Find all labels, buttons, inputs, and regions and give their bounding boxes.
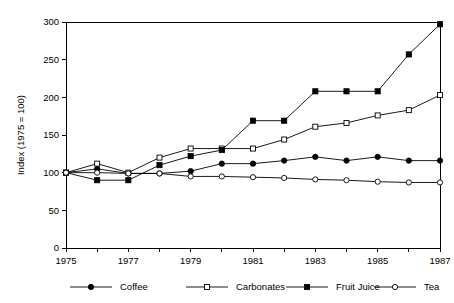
x-tick-label: 1985 bbox=[367, 255, 388, 266]
data-point-marker bbox=[437, 22, 442, 27]
legend-marker-icon bbox=[88, 284, 93, 289]
y-tick-label: 100 bbox=[43, 167, 59, 178]
data-point-marker bbox=[406, 52, 411, 57]
data-point-marker bbox=[219, 161, 224, 166]
plot-frame bbox=[66, 22, 440, 248]
data-point-marker bbox=[95, 161, 100, 166]
x-tick-label: 1975 bbox=[55, 255, 76, 266]
series-polyline bbox=[66, 24, 440, 180]
legend-item-fruit-juice[interactable]: Fruit Juice bbox=[286, 281, 380, 292]
x-tick-label: 1977 bbox=[118, 255, 139, 266]
data-point-marker bbox=[344, 120, 349, 125]
data-point-marker bbox=[344, 158, 349, 163]
y-axis-label-text: Index (1975 = 100) bbox=[15, 95, 26, 175]
data-point-marker bbox=[437, 180, 442, 185]
data-point-marker bbox=[437, 158, 442, 163]
legend-item-tea[interactable]: Tea bbox=[374, 281, 440, 292]
y-axis-title: Index (1975 = 100) bbox=[15, 95, 26, 175]
x-axis: 1975197719791981198319851987 bbox=[55, 248, 450, 266]
data-point-marker bbox=[157, 155, 162, 160]
data-point-marker bbox=[250, 175, 255, 180]
data-point-marker bbox=[281, 158, 286, 163]
data-series-group bbox=[63, 22, 442, 185]
data-point-marker bbox=[282, 175, 287, 180]
data-point-marker bbox=[250, 161, 255, 166]
data-point-marker bbox=[188, 146, 193, 151]
legend-label: Fruit Juice bbox=[336, 281, 380, 292]
data-point-marker bbox=[313, 177, 318, 182]
data-point-marker bbox=[344, 89, 349, 94]
line-chart-figure: 050100150200250300 197519771979198119831… bbox=[0, 0, 454, 303]
data-point-marker bbox=[375, 113, 380, 118]
x-tick-label: 1981 bbox=[242, 255, 263, 266]
chart-svg: 050100150200250300 197519771979198119831… bbox=[0, 0, 454, 303]
data-point-marker bbox=[375, 154, 380, 159]
y-tick-label: 0 bbox=[54, 242, 59, 253]
data-point-marker bbox=[188, 153, 193, 158]
data-point-marker bbox=[95, 170, 100, 175]
data-point-marker bbox=[188, 168, 193, 173]
y-tick-label: 200 bbox=[43, 92, 59, 103]
data-point-marker bbox=[219, 147, 224, 152]
data-point-marker bbox=[126, 171, 131, 176]
y-axis: 050100150200250300 bbox=[43, 16, 66, 253]
y-tick-label: 300 bbox=[43, 16, 59, 27]
data-point-marker bbox=[95, 178, 100, 183]
data-point-marker bbox=[282, 137, 287, 142]
data-point-marker bbox=[251, 146, 256, 151]
data-point-marker bbox=[250, 118, 255, 123]
legend-label: Tea bbox=[424, 281, 440, 292]
data-point-marker bbox=[344, 178, 349, 183]
data-point-marker bbox=[188, 174, 193, 179]
data-point-marker bbox=[157, 163, 162, 168]
data-point-marker bbox=[406, 158, 411, 163]
legend-item-coffee[interactable]: Coffee bbox=[70, 281, 148, 292]
legend-label: Coffee bbox=[120, 281, 148, 292]
data-point-marker bbox=[313, 89, 318, 94]
y-tick-label: 150 bbox=[43, 129, 59, 140]
data-point-marker bbox=[313, 124, 318, 129]
legend-item-carbonates[interactable]: Carbonates bbox=[186, 281, 285, 292]
data-point-marker bbox=[438, 93, 443, 98]
x-tick-label: 1987 bbox=[429, 255, 450, 266]
x-tick-label: 1983 bbox=[305, 255, 326, 266]
data-point-marker bbox=[406, 180, 411, 185]
data-point-marker bbox=[313, 154, 318, 159]
data-point-marker bbox=[219, 174, 224, 179]
y-tick-label: 50 bbox=[48, 205, 59, 216]
y-tick-label: 250 bbox=[43, 54, 59, 65]
series-fruit-juice bbox=[63, 22, 442, 183]
legend-marker-icon bbox=[392, 284, 397, 289]
data-point-marker bbox=[63, 170, 68, 175]
legend-label: Carbonates bbox=[236, 281, 285, 292]
chart-legend: CoffeeCarbonatesFruit JuiceTea bbox=[70, 281, 440, 292]
legend-marker-icon bbox=[205, 285, 210, 290]
legend-marker-icon bbox=[304, 284, 309, 289]
data-point-marker bbox=[282, 118, 287, 123]
data-point-marker bbox=[406, 108, 411, 113]
data-point-marker bbox=[375, 89, 380, 94]
data-point-marker bbox=[375, 179, 380, 184]
data-point-marker bbox=[126, 178, 131, 183]
data-point-marker bbox=[157, 171, 162, 176]
x-tick-label: 1979 bbox=[180, 255, 201, 266]
